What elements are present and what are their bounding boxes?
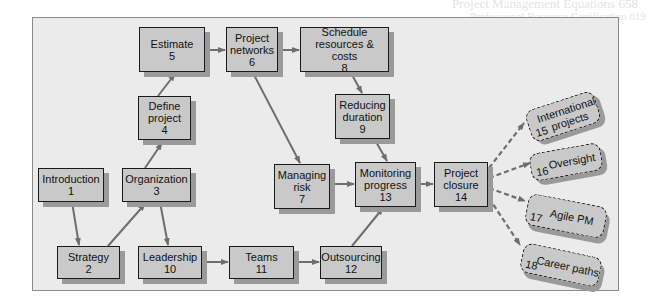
- node-organization: Organization 3: [122, 168, 191, 202]
- node-project-networks: Project networks 6: [226, 27, 278, 72]
- node-introduction: Introduction 1: [38, 168, 104, 202]
- node-number: 6: [249, 56, 255, 68]
- node-number: 5: [169, 50, 175, 62]
- node-label-line2: progress: [364, 179, 407, 191]
- node-label: Teams: [245, 251, 277, 263]
- edge-14-18: [489, 198, 520, 245]
- node-number: 10: [164, 263, 176, 275]
- node-teams: Teams 11: [229, 246, 294, 279]
- node-number: 7: [299, 193, 305, 205]
- node-label-line2: resources & costs: [301, 38, 388, 62]
- node-label: Career paths: [535, 254, 600, 279]
- node-monitoring-progress: Monitoring progress 13: [355, 162, 416, 207]
- node-label: Introduction: [42, 173, 99, 185]
- node-define-project: Define project 4: [138, 96, 191, 140]
- node-project-closure: Project closure 14: [434, 162, 488, 207]
- node-number: 11: [256, 263, 267, 275]
- edge-2-3: [108, 204, 145, 246]
- edge-4-5: [158, 74, 175, 96]
- node-label-line1: Monitoring: [360, 167, 411, 179]
- edge-3-10: [160, 202, 168, 245]
- node-number: 16: [535, 164, 549, 178]
- edge-8-9: [351, 73, 362, 93]
- node-label-line1: Reducing: [339, 99, 385, 111]
- node-label-line2: project: [148, 112, 181, 124]
- node-number: 17: [529, 210, 543, 224]
- node-number: 3: [153, 185, 159, 197]
- node-label: Strategy: [68, 251, 109, 263]
- node-number: 13: [379, 191, 391, 203]
- node-label-line1: Managing: [278, 169, 326, 181]
- edge-9-13: [375, 140, 387, 161]
- node-number: 18: [524, 258, 538, 272]
- node-leadership: Leadership 10: [138, 246, 202, 279]
- edge-14-15: [489, 123, 524, 168]
- node-schedule-resources: Schedule resources & costs 8: [300, 27, 389, 72]
- node-estimate: Estimate 5: [139, 27, 205, 72]
- node-number: 8: [341, 62, 347, 74]
- node-label-line2: risk: [293, 181, 310, 193]
- node-label-line1: Schedule: [322, 26, 368, 38]
- node-label-line1: Project: [235, 32, 269, 44]
- node-number: 9: [359, 123, 365, 135]
- node-number: 2: [85, 263, 91, 275]
- node-managing-risk: Managing risk 7: [274, 164, 330, 209]
- node-number: 14: [455, 191, 467, 203]
- node-label-line2: networks: [230, 44, 274, 56]
- node-label: Organization: [125, 173, 187, 185]
- edge-1-2: [72, 202, 79, 245]
- node-label-line1: Project: [444, 167, 478, 179]
- node-label-line2: closure: [443, 179, 478, 191]
- node-number: 12: [345, 263, 357, 275]
- node-label: Oversight: [548, 151, 596, 171]
- node-label: Agile PM: [549, 207, 595, 227]
- node-label-line2: duration: [343, 111, 383, 123]
- node-label-line1: Define: [149, 100, 181, 112]
- node-label: Estimate: [151, 38, 194, 50]
- node-number: 1: [68, 185, 74, 197]
- node-number: 4: [161, 124, 167, 136]
- edge-12-13: [352, 208, 383, 246]
- edge-14-16: [489, 163, 530, 178]
- node-outsourcing: Outsourcing 12: [320, 246, 382, 279]
- node-label: Outsourcing: [321, 251, 380, 263]
- edge-3-4: [145, 143, 162, 168]
- edge-6-7: [253, 73, 300, 163]
- node-label: Leadership: [143, 251, 197, 263]
- edge-14-17: [489, 188, 525, 201]
- node-strategy: Strategy 2: [57, 246, 120, 279]
- node-reducing-duration: Reducing duration 9: [335, 94, 390, 139]
